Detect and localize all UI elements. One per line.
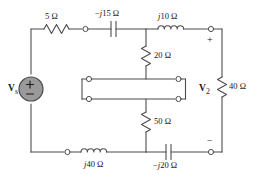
polarity-plus-output: +	[207, 35, 213, 45]
label-inductor-j40-ohm: j40 Ω	[84, 160, 103, 169]
label-capacitor-minus-j20-ohm: −j20 Ω	[153, 161, 177, 170]
output-v-subscript: 2	[206, 87, 210, 96]
inductor-j40-ohm	[81, 149, 107, 152]
value-j20: 20 Ω	[160, 160, 177, 170]
label-resistor-5-ohm: 5 Ω	[45, 12, 58, 21]
box-terminal-top-right	[176, 76, 181, 81]
label-resistor-50-ohm: 50 Ω	[154, 117, 171, 126]
inductor-j10-ohm	[158, 26, 184, 29]
resistor-5-ohm	[44, 25, 69, 34]
value-j40: 40 Ω	[86, 159, 103, 169]
source-v-subscript: s	[15, 87, 18, 96]
label-capacitor-minus-j15-ohm: −j15 Ω	[95, 9, 119, 18]
label-resistor-20-ohm: 20 Ω	[154, 51, 171, 60]
box-terminal-bottom-right	[176, 96, 181, 101]
value-j10: 10 Ω	[160, 11, 177, 21]
terminal-node-output-top	[208, 26, 213, 31]
circuit-schematic-canvas	[0, 0, 261, 177]
value-j15: 15 Ω	[102, 8, 119, 18]
resistor-20-ohm	[142, 46, 151, 66]
label-source-vs: Vs	[8, 83, 18, 96]
resistor-40-ohm	[218, 77, 227, 97]
polarity-minus-output: −	[207, 136, 213, 146]
box-terminal-top-left	[86, 76, 91, 81]
box-terminal-bottom-left	[86, 96, 91, 101]
label-resistor-40-ohm: 40 Ω	[229, 82, 246, 91]
label-inductor-j10-ohm: j10 Ω	[158, 12, 177, 21]
output-v-symbol: V	[199, 83, 206, 93]
voltage-source-vs	[19, 77, 43, 101]
terminal-node-top-left	[83, 26, 88, 31]
label-output-v2: V2	[199, 83, 210, 96]
source-v-symbol: V	[8, 83, 15, 93]
terminal-node-bottom-left	[65, 149, 70, 154]
resistor-50-ohm	[142, 112, 151, 132]
terminal-node-output-bottom	[208, 149, 213, 154]
circuit-diagram: 5 Ω −j15 Ω j10 Ω 20 Ω 50 Ω 40 Ω j40 Ω −j…	[0, 0, 261, 177]
